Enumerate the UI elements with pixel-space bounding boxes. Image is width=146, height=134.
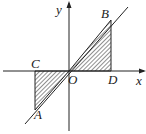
point-b-label: B [101,6,109,21]
shaded-triangle-obd [69,20,111,71]
coordinate-diagram: y x O B D C A [0,0,146,134]
x-axis-label: x [135,73,142,88]
shaded-triangle-oca [35,71,69,110]
point-c-label: C [31,56,40,71]
origin-label: O [68,72,78,87]
point-d-label: D [107,72,118,87]
y-axis-arrow-icon [67,1,72,8]
y-axis-label: y [54,2,62,17]
point-a-label: A [33,107,42,122]
